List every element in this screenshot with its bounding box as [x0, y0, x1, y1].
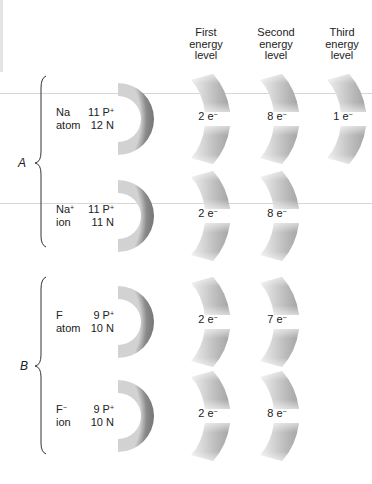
nucleus-f-atom [118, 286, 154, 358]
species-charge: + [70, 204, 74, 211]
proton-charge: + [110, 310, 114, 317]
proton-charge: + [110, 204, 114, 211]
neutron-count: 11 N [78, 216, 114, 229]
header-line: Third [307, 27, 372, 39]
species-symbol: Na [56, 106, 70, 118]
nucleus-na-atom [118, 83, 154, 155]
electron-count: 1 e [333, 110, 348, 122]
proton-count: 11 P [88, 203, 110, 215]
electron-charge: − [214, 314, 218, 321]
species-kind: atom [56, 322, 80, 335]
nucleus-f-ion [118, 380, 154, 452]
electron-charge: − [283, 408, 287, 415]
proton-charge: + [110, 107, 114, 114]
electron-count: 7 e [267, 313, 282, 325]
nucleus-composition-f-atom: 9 P+ 10 N [78, 309, 114, 335]
species-charge: − [63, 404, 67, 411]
group-label-a: A [18, 156, 26, 170]
species-symbol: Na [56, 203, 70, 215]
electrons-shell-2-na-ion: 8 e− [257, 207, 297, 220]
electrons-shell-1-na-atom: 2 e− [188, 110, 228, 123]
electrons-shell-1-f-atom: 2 e− [188, 313, 228, 326]
species-symbol: F [56, 309, 63, 321]
electrons-shell-2-f-ion: 8 e− [257, 407, 297, 420]
header-line: Second [241, 27, 311, 39]
electron-charge: − [214, 111, 218, 118]
header-second-energy-level: Second energy level [241, 27, 311, 62]
electron-count: 2 e [198, 207, 213, 219]
electron-count: 2 e [198, 110, 213, 122]
proton-count: 11 P [88, 106, 110, 118]
electron-charge: − [214, 408, 218, 415]
electron-charge: − [214, 208, 218, 215]
proton-charge: + [110, 404, 114, 411]
electron-charge: − [283, 314, 287, 321]
neutron-count: 10 N [78, 322, 114, 335]
electron-charge: − [349, 111, 353, 118]
electron-count: 2 e [198, 313, 213, 325]
species-kind: atom [56, 119, 80, 132]
header-third-energy-level: Third energy level [307, 27, 372, 62]
species-label-na-ion: Na+ ion [56, 203, 74, 229]
electrons-shell-1-f-ion: 2 e− [188, 407, 228, 420]
species-kind: ion [56, 216, 74, 229]
header-line: First [171, 27, 241, 39]
electron-count: 8 e [267, 407, 282, 419]
header-line: level [171, 50, 241, 62]
electrons-shell-2-f-atom: 7 e− [257, 313, 297, 326]
species-label-f-ion: F− ion [56, 403, 71, 429]
species-label-na-atom: Na atom [56, 106, 80, 132]
species-label-f-atom: F atom [56, 309, 80, 335]
nucleus-composition-na-atom: 11 P+ 12 N [78, 106, 114, 132]
electrons-shell-2-na-atom: 8 e− [257, 110, 297, 123]
species-kind: ion [56, 416, 71, 429]
proton-count: 9 P [93, 403, 110, 415]
neutron-count: 12 N [78, 119, 114, 132]
proton-count: 9 P [93, 309, 110, 321]
electron-count: 8 e [267, 207, 282, 219]
header-line: level [241, 50, 311, 62]
electrons-shell-3-na-atom: 1 e− [323, 110, 363, 123]
electron-charge: − [283, 111, 287, 118]
brace-a [35, 76, 46, 247]
electron-count: 8 e [267, 110, 282, 122]
brace-b [35, 277, 46, 454]
nucleus-composition-na-ion: 11 P+ 11 N [78, 203, 114, 229]
group-label-b: B [20, 359, 28, 373]
species-symbol: F [56, 403, 63, 415]
electron-charge: − [283, 208, 287, 215]
nucleus-na-ion [118, 180, 154, 252]
electron-count: 2 e [198, 407, 213, 419]
header-first-energy-level: First energy level [171, 27, 241, 62]
header-line: level [307, 50, 372, 62]
electrons-shell-1-na-ion: 2 e− [188, 207, 228, 220]
neutron-count: 10 N [78, 416, 114, 429]
nucleus-composition-f-ion: 9 P+ 10 N [78, 403, 114, 429]
